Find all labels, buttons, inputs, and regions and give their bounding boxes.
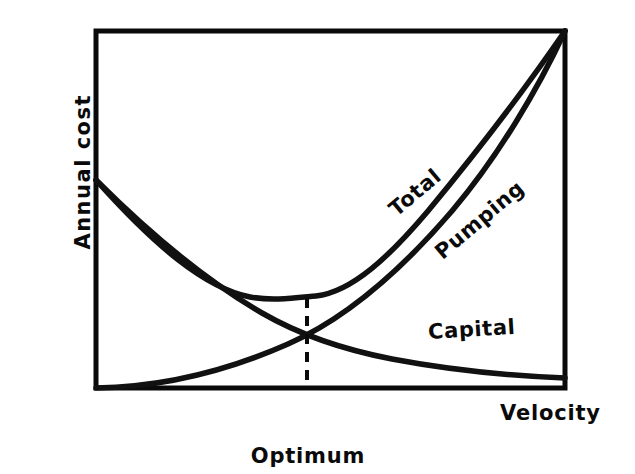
figure-container: Annual cost Velocity Optimum velocity To… — [0, 0, 635, 474]
y-axis-title: Annual cost — [72, 82, 96, 262]
optimum-velocity-line-1: Optimum — [232, 445, 384, 469]
x-axis-title: Velocity — [500, 402, 601, 426]
optimum-velocity-tick-label: Optimum velocity — [232, 398, 384, 474]
